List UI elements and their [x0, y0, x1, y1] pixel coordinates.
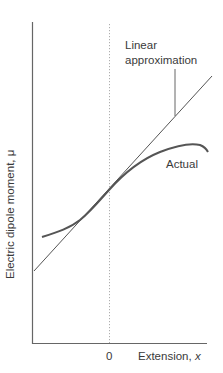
- x-axis-variable: x: [195, 350, 201, 362]
- actual-label: Actual: [166, 158, 198, 171]
- linear-label-line1: Linear: [125, 39, 157, 52]
- x-zero-tick-label: 0: [106, 350, 112, 363]
- linear-approximation-line: [34, 76, 212, 271]
- x-axis-label-text: Extension,: [138, 350, 195, 362]
- linear-label-line2: approximation: [125, 54, 197, 67]
- x-axis-label: Extension, x: [138, 350, 201, 363]
- y-axis-label: Electric dipole moment, μ: [4, 150, 16, 279]
